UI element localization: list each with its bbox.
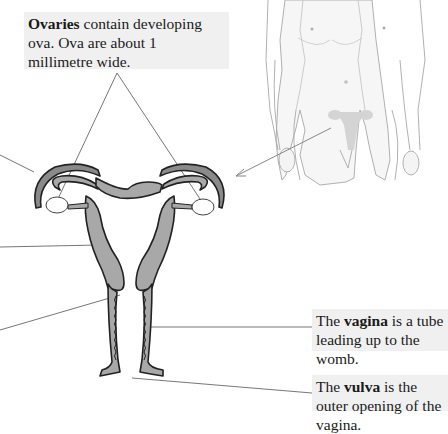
left-ovary-icon: [46, 197, 68, 213]
ovaries-term: Ovaries: [28, 15, 80, 32]
uterus-diagram: [35, 164, 224, 376]
ovaries-label: Ovaries contain developing ova. Ova are …: [24, 12, 229, 69]
vulva-prefix: The: [316, 378, 344, 395]
vagina-term: vagina: [344, 312, 388, 329]
vulva-label: The vulva is the outer opening of the va…: [312, 375, 448, 411]
right-ovary-icon: [192, 199, 214, 215]
vagina-label: The vagina is a tube leading up to the w…: [312, 309, 448, 351]
body-illustration: [266, 0, 425, 185]
vulva-term: vulva: [344, 378, 380, 395]
vagina-prefix: The: [316, 312, 344, 329]
